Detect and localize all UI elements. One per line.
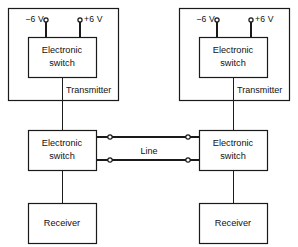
circuit-diagram: −6 V +6 V Electronic switch Transmitter … xyxy=(0,0,298,247)
left-positive-supply-terminal xyxy=(78,18,82,22)
line-terminal-upper-left xyxy=(108,135,112,139)
right-lower-switch-label-line2: switch xyxy=(200,151,266,162)
left-negative-supply-terminal xyxy=(44,18,48,22)
left-lower-switch-label-line1: Electronic xyxy=(29,138,95,149)
left-negative-supply-label: −6 V xyxy=(14,15,44,25)
transmission-line-label: Line xyxy=(123,146,175,156)
right-negative-supply-label: −6 V xyxy=(185,15,215,25)
left-positive-supply-label: +6 V xyxy=(84,15,118,25)
right-positive-supply-terminal xyxy=(249,18,253,22)
line-terminal-lower-left xyxy=(108,158,112,162)
left-lower-switch-label-line2: switch xyxy=(29,151,95,162)
left-transmitter-label: Transmitter xyxy=(66,85,111,95)
right-transmitter-label: Transmitter xyxy=(237,85,282,95)
right-transmitter-switch-label-line2: switch xyxy=(200,58,266,69)
right-positive-supply-label: +6 V xyxy=(255,15,289,25)
right-negative-supply-terminal xyxy=(215,18,219,22)
diagram-canvas xyxy=(0,0,298,247)
right-transmitter-switch-label-line1: Electronic xyxy=(200,45,266,56)
line-terminal-lower-right xyxy=(186,158,190,162)
right-receiver-label: Receiver xyxy=(200,218,266,229)
right-lower-switch-label-line1: Electronic xyxy=(200,138,266,149)
left-receiver-label: Receiver xyxy=(29,218,95,229)
line-terminal-upper-right xyxy=(186,135,190,139)
left-transmitter-switch-label-line1: Electronic xyxy=(29,45,95,56)
left-transmitter-switch-label-line2: switch xyxy=(29,58,95,69)
